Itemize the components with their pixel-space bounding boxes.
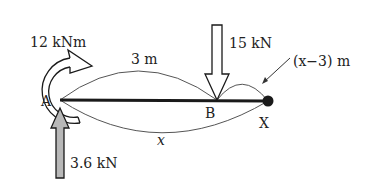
moment-label: 12 kNm bbox=[30, 34, 86, 50]
dimension-arc-ax bbox=[60, 100, 268, 133]
beam bbox=[60, 100, 268, 101]
point-load-label: 15 kN bbox=[229, 35, 272, 51]
leader-arrow-icon bbox=[262, 58, 290, 84]
reaction-arrow-icon bbox=[51, 108, 69, 178]
point-x-marker bbox=[263, 96, 274, 107]
dimension-bx-label: (x−3) m bbox=[293, 53, 350, 69]
reaction-label: 3.6 kN bbox=[70, 155, 117, 171]
beam-diagram: 12 kNm 3 m 15 kN (x−3) m A B X x 3.6 kN bbox=[0, 0, 369, 189]
point-a-label: A bbox=[40, 93, 52, 109]
dimension-arc-ab bbox=[60, 71, 217, 100]
dimension-ab-label: 3 m bbox=[131, 51, 158, 67]
dimension-arc-bx bbox=[217, 84, 268, 101]
point-x-label: X bbox=[259, 115, 269, 131]
dimension-ax-label: x bbox=[157, 132, 165, 148]
point-b-label: B bbox=[205, 105, 215, 121]
point-load-arrow-icon bbox=[205, 25, 229, 100]
